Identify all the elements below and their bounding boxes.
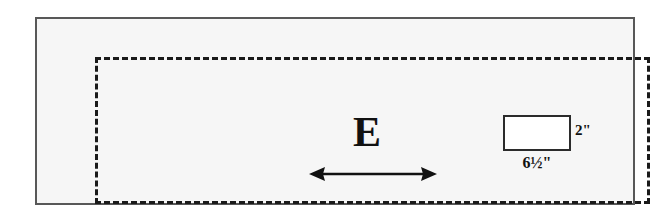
- outer-frame: E 2" 6½": [35, 17, 635, 205]
- letter-marker-e: E: [353, 111, 381, 153]
- diagram-canvas: E 2" 6½": [0, 0, 669, 221]
- block-height-label: 2": [575, 123, 591, 138]
- block-rectangle: [503, 115, 571, 151]
- block-width-label: 6½": [503, 155, 571, 171]
- double-headed-arrow-icon: [309, 163, 437, 185]
